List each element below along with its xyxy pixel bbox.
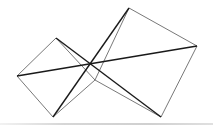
edge-P_lower-F_bottom_right bbox=[95, 80, 161, 117]
edge-P_lower-D_top_right bbox=[95, 8, 129, 80]
bottom-divider bbox=[0, 123, 213, 125]
geometric-diagram bbox=[0, 0, 213, 135]
thin-edges bbox=[17, 8, 197, 117]
diagonal-C_bottom_left-D_top_right bbox=[53, 8, 129, 117]
edge-P_lower-C_bottom_left bbox=[53, 80, 95, 117]
edge-B_top_left-P_lower bbox=[56, 38, 95, 80]
edge-E_right-F_bottom_right bbox=[161, 46, 197, 117]
diagonal-A_left-E_right bbox=[17, 46, 197, 76]
diagonal-B_top_left-F_bottom_right bbox=[56, 38, 161, 117]
edge-D_top_right-E_right bbox=[129, 8, 197, 46]
thick-diagonals bbox=[17, 8, 197, 117]
edge-A_left-C_bottom_left bbox=[17, 76, 53, 117]
